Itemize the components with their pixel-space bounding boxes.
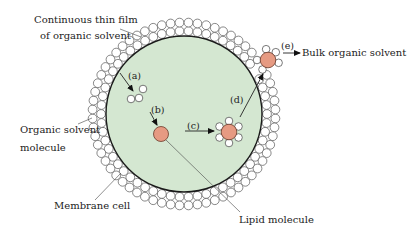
solvent-molecule (93, 79, 102, 88)
solvent-molecule (175, 193, 184, 202)
solvent-molecule (133, 188, 142, 197)
label-film-line1: Continuous thin film (34, 14, 138, 25)
solvent-molecule (202, 198, 211, 207)
solvent-molecule (219, 183, 228, 192)
solvent-molecule (157, 198, 166, 207)
solvent-molecule (271, 114, 280, 123)
label-solvent-line1: Organic solvent (20, 124, 100, 135)
solvent-molecule (97, 110, 106, 119)
step-a: (a) (128, 70, 141, 81)
solvent-molecule (89, 96, 98, 105)
solvent-molecule (225, 139, 233, 147)
solvent-molecule (141, 27, 150, 36)
solvent-molecule (149, 33, 158, 42)
solvent-molecule (270, 123, 279, 132)
solvent-molecule (262, 119, 271, 128)
solvent-molecule (149, 23, 158, 32)
solvent-molecule (261, 127, 270, 136)
solvent-molecule (106, 164, 115, 173)
solvent-molecule (97, 101, 106, 110)
solvent-molecule (268, 87, 277, 96)
solvent-molecule (202, 30, 211, 39)
solvent-molecule (97, 149, 106, 158)
solvent-molecule (166, 19, 175, 28)
solvent-molecule (141, 192, 150, 201)
solvent-molecule (219, 192, 228, 201)
solvent-molecule (227, 31, 236, 40)
solvent-molecule (262, 149, 271, 158)
solvent-molecule (184, 193, 193, 202)
solvent-molecule (149, 187, 158, 196)
solvent-molecule (193, 200, 202, 209)
solvent-molecule (270, 96, 279, 105)
solvent-molecule (247, 48, 256, 57)
lipid-molecule (221, 124, 237, 140)
solvent-molecule (210, 23, 219, 32)
solvent-molecule (263, 110, 272, 119)
diagram-canvas: Continuous thin film of organic solvent … (0, 0, 409, 236)
step-c: (c) (187, 120, 200, 131)
solvent-molecule (91, 87, 100, 96)
solvent-molecule (88, 114, 97, 123)
solvent-molecule (261, 92, 270, 101)
membrane-cell (106, 36, 262, 192)
solvent-molecule (219, 27, 228, 36)
solvent-molecule (266, 140, 275, 149)
solvent-molecule (210, 187, 219, 196)
solvent-molecule (127, 95, 135, 103)
label-solvent-line2: molecule (20, 142, 66, 153)
solvent-molecule (184, 201, 193, 210)
solvent-molecule (202, 21, 211, 30)
solvent-molecule (253, 56, 261, 64)
solvent-molecule (139, 85, 147, 93)
solvent-molecule (141, 36, 150, 45)
step-d: (d) (230, 94, 244, 105)
solvent-molecule (234, 183, 243, 192)
solvent-molecule (166, 192, 175, 201)
solvent-molecule (157, 30, 166, 39)
solvent-molecule (175, 201, 184, 210)
solvent-molecule (166, 28, 175, 37)
solvent-molecule (266, 79, 275, 88)
solvent-molecule (193, 192, 202, 201)
label-film-line2: of organic solvent (40, 30, 131, 41)
solvent-molecule (268, 132, 277, 141)
solvent-molecule (193, 28, 202, 37)
solvent-molecule (133, 41, 142, 50)
solvent-molecule (88, 105, 97, 114)
solvent-molecule (227, 188, 236, 197)
solvent-molecule (210, 33, 219, 42)
solvent-molecule (149, 196, 158, 205)
solvent-molecule (262, 101, 271, 110)
solvent-molecule (225, 117, 233, 125)
lipid-solvent-complex-e (253, 45, 282, 73)
solvent-molecule (210, 196, 219, 205)
solvent-molecule (135, 94, 143, 102)
solvent-molecule (226, 178, 235, 187)
solvent-molecule (175, 18, 184, 27)
solvent-molecule (141, 183, 150, 192)
solvent-molecule (99, 92, 108, 101)
solvent-molecule (258, 157, 267, 166)
solvent-molecule (219, 36, 228, 45)
solvent-molecule (101, 157, 110, 166)
step-b: (b) (151, 104, 165, 115)
leader-membrane (95, 173, 121, 200)
solvent-molecule (93, 140, 102, 149)
solvent-molecule (202, 190, 211, 199)
label-bulk: Bulk organic solvent (302, 47, 406, 58)
solvent-molecule (193, 19, 202, 28)
solvent-molecule (157, 190, 166, 199)
lipid-molecule-b (154, 127, 169, 142)
step-e: (e) (281, 40, 294, 51)
label-lipid: Lipid molecule (239, 214, 314, 225)
lipid-molecule (260, 52, 276, 68)
label-membrane: Membrane cell (54, 200, 130, 211)
solvent-molecule (184, 18, 193, 27)
solvent-molecule (166, 200, 175, 209)
solvent-molecule (175, 27, 184, 36)
solvent-molecule (101, 63, 110, 72)
solvent-molecule (184, 27, 193, 36)
solvent-molecule (97, 71, 106, 80)
solvent-molecule (157, 21, 166, 30)
